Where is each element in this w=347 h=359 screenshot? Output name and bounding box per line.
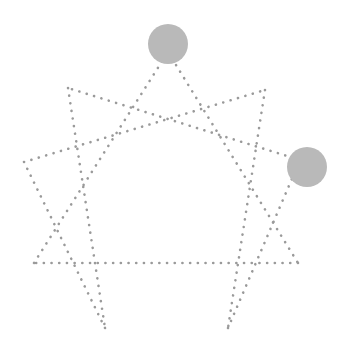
triangle-line-6-9 [34,52,168,263]
hexad-line-1-4 [228,90,265,328]
triangle-line-9-3 [168,52,298,263]
enneagram-diagram [0,0,347,359]
right-marker-circle [287,147,327,187]
top-marker-circle [148,24,188,64]
hexad-line-4-2 [228,160,300,328]
connecting-lines [24,52,300,328]
hexad-line-2-8 [68,88,300,160]
hexad-line-5-7 [24,162,105,328]
hexad-line-8-5 [68,88,105,328]
